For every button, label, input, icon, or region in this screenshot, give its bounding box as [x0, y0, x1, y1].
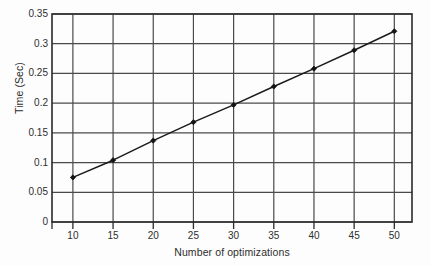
plot-area — [0, 0, 431, 266]
x-axis-ticks — [52, 222, 394, 229]
horizontal-gridlines — [52, 14, 412, 222]
chart-figure: Time (Sec) Number of optimizations 00.05… — [0, 0, 431, 266]
vertical-gridlines — [73, 14, 394, 222]
data-point-marker — [271, 84, 276, 89]
data-point-marker — [70, 175, 75, 180]
data-point-marker — [191, 120, 196, 125]
data-point-marker — [392, 29, 397, 34]
data-point-marker — [311, 66, 316, 71]
data-point-marker — [151, 138, 156, 143]
plot-frame — [52, 14, 412, 222]
data-point-marker — [352, 48, 357, 53]
plot-border — [52, 14, 412, 222]
